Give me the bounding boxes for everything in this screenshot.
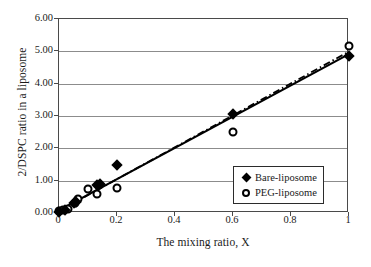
x-tick-mark [232, 212, 233, 216]
legend: Bare-liposome PEG-liposome [233, 166, 324, 204]
open-circle-icon [239, 189, 253, 197]
x-tick-label: 1 [328, 215, 368, 225]
legend-label: Bare-liposome [253, 172, 317, 183]
y-tick-label: 3.00 [13, 110, 53, 120]
legend-label: PEG-liposome [253, 187, 317, 198]
x-tick-label: 0.4 [154, 215, 194, 225]
x-tick-label: 0.2 [96, 215, 136, 225]
x-tick-label: 0.6 [212, 215, 252, 225]
y-tick-label: 2.00 [13, 142, 53, 152]
y-tick-label: 1.00 [13, 175, 53, 185]
y-tick-label: 4.00 [13, 78, 53, 88]
x-tick-mark [290, 212, 291, 216]
y-tick-label: 5.00 [13, 45, 53, 55]
x-tick-mark [348, 212, 349, 216]
y-tick-label: 6.00 [13, 13, 53, 23]
filled-diamond-icon [239, 174, 253, 181]
x-axis-title: The mixing ratio, X [58, 236, 348, 248]
data-point [113, 183, 122, 192]
chart-figure: 2/DSPC ratio in a liposome The mixing ra… [0, 0, 371, 267]
x-tick-mark [174, 212, 175, 216]
legend-item-bare-liposome: Bare-liposome [239, 170, 317, 185]
x-tick-label: 0.8 [270, 215, 310, 225]
legend-item-peg-liposome: PEG-liposome [239, 185, 317, 200]
x-tick-mark [116, 212, 117, 216]
data-point [229, 128, 238, 137]
